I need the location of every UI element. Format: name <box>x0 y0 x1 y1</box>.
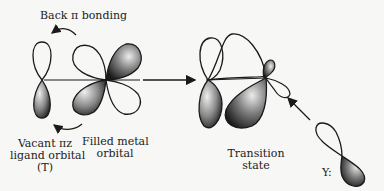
ts-loop-big <box>208 34 266 80</box>
transition-state-orbitals <box>199 34 290 128</box>
ts-small-loop-right <box>266 78 290 98</box>
metal-lobe-upper-right-shaded <box>106 44 141 80</box>
ligand-lower-lobe-shaded <box>34 80 51 118</box>
filled-label-line2: orbital <box>82 148 148 160</box>
nucleophile-upper-lobe-empty <box>316 123 342 156</box>
nucleophile-lower-lobe-shaded <box>341 156 365 186</box>
ts-label-line2: state <box>226 160 286 172</box>
vacant-label-line3: (T) <box>10 162 80 174</box>
metal-lobe-lower-left-shaded <box>73 80 106 115</box>
ts-lobe-left-shaded <box>199 80 222 128</box>
transition-state-label: Transition state <box>226 148 286 172</box>
metal-lobe-upper-left-empty <box>73 45 106 80</box>
filled-metal-orbital <box>73 44 141 115</box>
vacant-ligand-orbital-label: Vacant πz ligand orbital (T) <box>10 138 80 174</box>
ts-lobe-right-shaded <box>225 78 266 128</box>
nucleophile-label: Y: <box>322 167 332 179</box>
back-bonding-arrow-top <box>52 29 76 35</box>
ligand-upper-lobe-empty <box>33 42 51 80</box>
back-bonding-arrow-bottom <box>54 124 82 129</box>
ts-small-lobe-upper-shaded <box>263 60 275 78</box>
back-bonding-label: Back π bonding <box>40 10 127 22</box>
nucleophile-approach-arrow <box>288 98 310 120</box>
filled-metal-orbital-label: Filled metal orbital <box>82 136 148 160</box>
metal-lobe-lower-right-empty <box>106 80 140 114</box>
